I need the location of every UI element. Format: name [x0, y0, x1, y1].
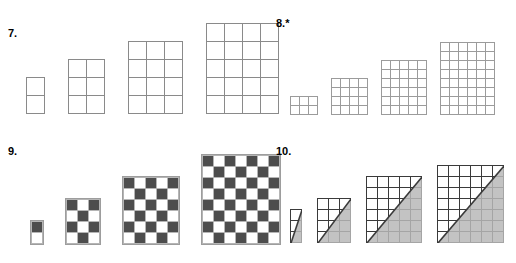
grid-cell: [400, 97, 409, 106]
grid-cell: [124, 233, 134, 243]
grid-cell: [168, 200, 178, 210]
grid-cell: [418, 88, 427, 97]
grid-cell: [243, 42, 261, 60]
grid-cell: [243, 96, 261, 114]
grid-cell: [247, 222, 257, 232]
grid-cell: [225, 222, 235, 232]
grid-cell: [391, 88, 400, 97]
grid-cell: [459, 106, 468, 115]
grid-cell: [157, 189, 167, 199]
grid-cell: [459, 70, 468, 79]
grid-cell: [400, 61, 409, 70]
grid-cell: [78, 200, 88, 210]
grid-cell: [382, 70, 391, 79]
grid-cell: [367, 199, 378, 210]
grid-cell: [477, 52, 486, 61]
grid-cell: [332, 97, 341, 106]
grid-cell: [411, 199, 422, 210]
figure: [290, 96, 318, 115]
problem-number-7: 7.: [8, 28, 17, 39]
grid-cell: [69, 60, 87, 78]
grid-cell: [236, 156, 246, 166]
figure: [65, 198, 101, 245]
grid-cell: [247, 211, 257, 221]
grid-cell: [32, 233, 42, 243]
grid-cell: [378, 210, 389, 221]
grid-cell: [400, 188, 411, 199]
grid-cell: [382, 106, 391, 115]
grid-cell: [203, 211, 213, 221]
grid-cell: [225, 60, 243, 78]
grid-cell: [168, 222, 178, 232]
grid-cell: [441, 61, 450, 70]
figure: [381, 60, 427, 115]
grid-cell: [438, 232, 449, 243]
grid-cell: [203, 200, 213, 210]
grid-cell: [411, 221, 422, 232]
grid-cell: [389, 188, 400, 199]
grid-cell: [247, 167, 257, 177]
figure: [68, 59, 105, 114]
grid-cell: [318, 210, 329, 221]
grid-cell: [450, 70, 459, 79]
grid-cell: [165, 96, 183, 114]
grid-cell: [135, 200, 145, 210]
grid-cell: [309, 106, 318, 115]
grid-cell: [391, 79, 400, 88]
grid-cell: [147, 78, 165, 96]
grid-cell: [291, 232, 302, 243]
grid-cell: [359, 79, 368, 88]
grid-cell: [459, 88, 468, 97]
grid-cell: [87, 96, 105, 114]
grid-cell: [468, 106, 477, 115]
grid-cell: [157, 211, 167, 221]
grid-cell: [493, 177, 504, 188]
grid-cell: [225, 24, 243, 42]
grid-cell: [450, 88, 459, 97]
grid-cell: [468, 88, 477, 97]
grid-cell: [247, 233, 257, 243]
grid-cell: [418, 97, 427, 106]
grid-cell: [89, 222, 99, 232]
figure-row-8: [290, 42, 495, 115]
grid-cell: [214, 178, 224, 188]
grid-cell: [482, 232, 493, 243]
grid-cell: [441, 97, 450, 106]
grid-cell: [359, 88, 368, 97]
grid-cell: [247, 178, 257, 188]
grid-cell: [482, 199, 493, 210]
grid-cell: [460, 188, 471, 199]
grid-cell: [32, 222, 42, 232]
grid-cell: [391, 97, 400, 106]
grid-cell: [482, 188, 493, 199]
grid-cell: [486, 106, 495, 115]
grid-cell: [382, 79, 391, 88]
grid-cell: [78, 233, 88, 243]
problem-7: 7.: [0, 0, 262, 132]
grid-cell: [459, 79, 468, 88]
grid-cell: [409, 88, 418, 97]
problem-number-8: 8.*: [276, 18, 289, 29]
grid-cell: [471, 210, 482, 221]
grid-cell: [450, 61, 459, 70]
grid-cell: [214, 211, 224, 221]
grid-cell: [471, 199, 482, 210]
grid-cell: [214, 222, 224, 232]
grid-cell: [493, 199, 504, 210]
grid-cell: [27, 96, 45, 114]
grid-cell: [400, 79, 409, 88]
grid-cell: [409, 70, 418, 79]
grid-cell: [459, 61, 468, 70]
grid-cell: [207, 24, 225, 42]
grid-cell: [449, 221, 460, 232]
grid-cell: [378, 232, 389, 243]
grid-cell: [146, 233, 156, 243]
grid-cell: [147, 42, 165, 60]
grid-cell: [203, 178, 213, 188]
star-icon: *: [285, 17, 289, 29]
grid-cell: [309, 97, 318, 106]
grid-cell: [460, 232, 471, 243]
grid-cell: [378, 199, 389, 210]
grid-cell: [459, 43, 468, 52]
grid-cell: [486, 97, 495, 106]
